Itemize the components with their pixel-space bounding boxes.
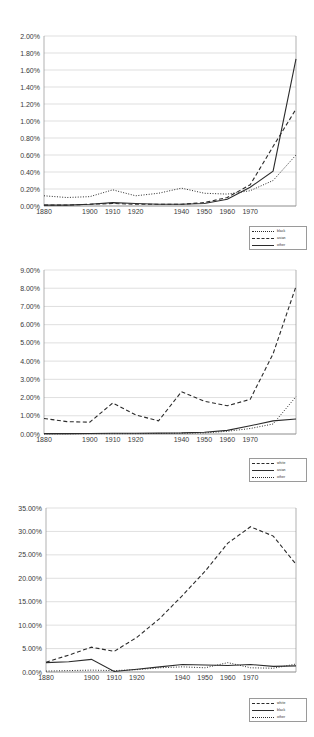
y-axis-tick-label: 10.00% — [18, 622, 42, 629]
legend-label: white — [277, 460, 285, 467]
legend-swatch-dashed-icon — [252, 238, 274, 240]
chart-2-container: 0.00%1.00%2.00%3.00%4.00%5.00%6.00%7.00%… — [0, 252, 314, 492]
chart-3-legend: whiteblackother — [249, 698, 307, 722]
chart-1-plot: 0.00%0.20%0.40%0.60%0.80%1.00%1.20%1.40%… — [0, 0, 314, 252]
chart-2-legend: whiteasianother — [249, 458, 307, 482]
y-axis-tick-label: 1.80% — [20, 50, 40, 57]
y-axis-tick-label: 9.00% — [20, 267, 40, 274]
x-axis-tick-label: 1920 — [128, 208, 144, 215]
series-line-other — [44, 397, 296, 434]
legend-swatch-dashed-icon — [252, 463, 274, 465]
legend-label: asian — [277, 235, 286, 242]
legend-swatch-dashed-icon — [252, 703, 274, 705]
y-axis-tick-label: 0.20% — [20, 186, 40, 193]
y-axis-tick-label: 0.40% — [20, 169, 40, 176]
legend-item-other: other — [252, 474, 304, 481]
legend-item-asian: asian — [252, 235, 304, 242]
legend-item-asian: asian — [252, 467, 304, 474]
x-axis-tick-label: 1960 — [220, 674, 236, 681]
y-axis-tick-label: 0.60% — [20, 152, 40, 159]
y-axis-tick-label: 6.00% — [20, 321, 40, 328]
series-line-white — [46, 527, 296, 662]
legend-label: other — [277, 474, 285, 481]
legend-swatch-dotted-icon — [252, 231, 274, 233]
y-axis-tick-label: 5.00% — [20, 339, 40, 346]
legend-label: white — [277, 700, 285, 707]
x-axis-tick-label: 1940 — [174, 436, 190, 443]
y-axis-tick-label: 20.00% — [18, 575, 42, 582]
series-line-other — [46, 663, 296, 671]
legend-label: other — [277, 714, 285, 721]
legend-swatch-solid-icon — [252, 710, 274, 712]
x-axis-tick-label: 1950 — [197, 674, 213, 681]
x-axis-tick-label: 1940 — [174, 208, 190, 215]
legend-swatch-solid-icon — [252, 245, 274, 247]
x-axis-tick-label: 1910 — [105, 436, 121, 443]
chart-stack: 0.00%0.20%0.40%0.60%0.80%1.00%1.20%1.40%… — [0, 0, 314, 737]
y-axis-tick-label: 15.00% — [18, 598, 42, 605]
x-axis-tick-label: 1910 — [106, 674, 122, 681]
x-axis-tick-label: 1900 — [84, 674, 100, 681]
legend-item-other: other — [252, 242, 304, 249]
y-axis-tick-label: 1.00% — [20, 118, 40, 125]
x-axis-tick-label: 1910 — [105, 208, 121, 215]
legend-item-black: black — [252, 228, 304, 235]
x-axis-tick-label: 1880 — [38, 674, 54, 681]
x-axis-tick-label: 1950 — [197, 208, 213, 215]
chart-2-plot: 0.00%1.00%2.00%3.00%4.00%5.00%6.00%7.00%… — [0, 252, 314, 492]
y-axis-tick-label: 8.00% — [20, 285, 40, 292]
legend-item-black: black — [252, 707, 304, 714]
y-axis-tick-label: 1.40% — [20, 84, 40, 91]
y-axis-tick-label: 1.60% — [20, 67, 40, 74]
series-line-white — [44, 286, 296, 422]
legend-item-white: white — [252, 460, 304, 467]
y-axis-tick-label: 7.00% — [20, 303, 40, 310]
y-axis-tick-label: 1.00% — [20, 412, 40, 419]
y-axis-tick-label: 2.00% — [20, 33, 40, 40]
legend-item-other: other — [252, 714, 304, 721]
y-axis-tick-label: 4.00% — [20, 358, 40, 365]
chart-1-legend: blackasianother — [249, 226, 307, 250]
x-axis-tick-label: 1900 — [82, 208, 98, 215]
series-line-other — [44, 59, 296, 205]
x-axis-tick-label: 1940 — [175, 674, 191, 681]
y-axis-tick-label: 3.00% — [20, 376, 40, 383]
x-axis-tick-label: 1960 — [219, 436, 235, 443]
chart-3-container: 0.00%5.00%10.00%15.00%20.00%25.00%30.00%… — [0, 492, 314, 737]
x-axis-tick-label: 1960 — [219, 208, 235, 215]
legend-item-white: white — [252, 700, 304, 707]
x-axis-tick-label: 1880 — [36, 436, 52, 443]
legend-label: asian — [277, 467, 286, 474]
y-axis-tick-label: 1.20% — [20, 101, 40, 108]
x-axis-tick-label: 1900 — [82, 436, 98, 443]
x-axis-tick-label: 1970 — [242, 436, 258, 443]
series-line-black — [46, 659, 296, 671]
x-axis-tick-label: 1950 — [197, 436, 213, 443]
legend-swatch-dotted-icon — [252, 717, 274, 719]
legend-swatch-dotted-icon — [252, 477, 274, 479]
series-line-asian — [44, 419, 296, 434]
chart-1-container: 0.00%0.20%0.40%0.60%0.80%1.00%1.20%1.40%… — [0, 0, 314, 252]
series-line-black — [44, 155, 296, 198]
y-axis-tick-label: 30.00% — [18, 528, 42, 535]
legend-label: black — [277, 707, 285, 714]
legend-label: other — [277, 242, 285, 249]
legend-swatch-solid-icon — [252, 470, 274, 472]
y-axis-tick-label: 2.00% — [20, 394, 40, 401]
y-axis-tick-label: 25.00% — [18, 551, 42, 558]
x-axis-tick-label: 1920 — [128, 436, 144, 443]
legend-label: black — [277, 228, 285, 235]
y-axis-tick-label: 35.00% — [18, 505, 42, 512]
y-axis-tick-label: 5.00% — [22, 645, 42, 652]
x-axis-tick-label: 1880 — [36, 208, 52, 215]
x-axis-tick-label: 1970 — [242, 208, 258, 215]
x-axis-tick-label: 1970 — [243, 674, 259, 681]
y-axis-tick-label: 0.80% — [20, 135, 40, 142]
x-axis-tick-label: 1920 — [129, 674, 145, 681]
